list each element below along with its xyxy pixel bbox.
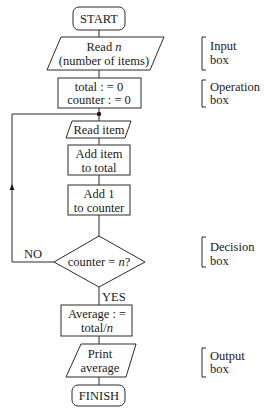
- yes-label: YES: [102, 290, 126, 304]
- input-line1: Read n: [86, 40, 121, 54]
- annotation-output-line1: Output: [210, 349, 245, 363]
- print-line1: Print: [88, 347, 113, 361]
- annotation-bracket: [202, 237, 206, 267]
- init-line2: counter : = 0: [67, 93, 131, 107]
- annotation-bracket: [202, 37, 206, 70]
- average-line1: Average : =: [68, 307, 126, 321]
- annotation-bracket: [202, 80, 206, 107]
- read-item-label: Read item: [73, 123, 124, 137]
- start-label: START: [80, 12, 118, 26]
- annotation-decision-line1: Decision: [210, 240, 255, 254]
- input-line2: (number of items): [59, 54, 149, 68]
- add-one-line1: Add 1: [84, 187, 115, 201]
- average-line2: total/n: [81, 321, 113, 335]
- add-item-line2: to total: [81, 161, 117, 175]
- arrow-up-icon: [10, 184, 15, 190]
- print-line2: average: [81, 361, 120, 375]
- flowchart-diagram: START Read n (number of items) total : =…: [0, 0, 274, 416]
- annotation-operation-line2: box: [210, 93, 230, 107]
- junction-dot: [97, 112, 101, 116]
- annotation-decision-line2: box: [210, 254, 230, 268]
- finish-label: FINISH: [79, 389, 119, 403]
- annotation-input-line1: Input: [210, 39, 237, 53]
- decision-label: counter = n?: [68, 255, 131, 269]
- add-item-line1: Add item: [76, 147, 123, 161]
- add-one-line2: to counter: [74, 201, 125, 215]
- annotation-bracket: [202, 348, 206, 377]
- init-line1: total : = 0: [75, 80, 123, 94]
- annotation-operation-line1: Operation: [210, 80, 261, 94]
- annotation-input-line2: box: [210, 53, 230, 67]
- annotation-output-line2: box: [210, 362, 230, 376]
- no-label: NO: [24, 247, 42, 261]
